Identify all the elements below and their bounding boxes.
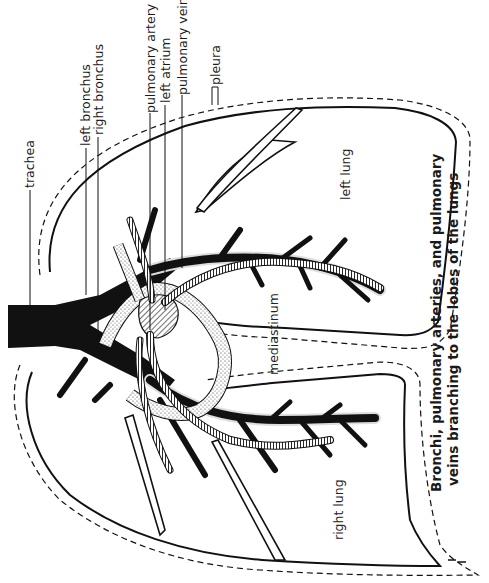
- caption-line-2: veins branching to the lobes of the lung…: [445, 173, 461, 486]
- left-atrium-shape: [139, 295, 179, 338]
- label-pulmonary-vein: pulmonary vein: [175, 0, 190, 95]
- left-lung-fissure: [197, 108, 302, 212]
- region-left-lung: left lung: [338, 149, 353, 200]
- label-pleura: pleura: [208, 45, 223, 85]
- label-pulmonary-artery: pulmonary artery: [143, 3, 158, 113]
- label-left-atrium: left atrium: [158, 38, 173, 104]
- region-right-lung: right lung: [331, 479, 346, 540]
- lung-vasculature-diagram: trachea left bronchus right bronchus pul…: [0, 0, 489, 583]
- region-mediastinum: mediastinum: [266, 293, 281, 375]
- label-right-bronchus: right bronchus: [91, 44, 106, 135]
- right-lung-outline: [14, 362, 478, 575]
- label-trachea: trachea: [22, 140, 37, 188]
- caption-line-1: Bronchi, pulmonary arteries, and pulmona…: [428, 154, 444, 492]
